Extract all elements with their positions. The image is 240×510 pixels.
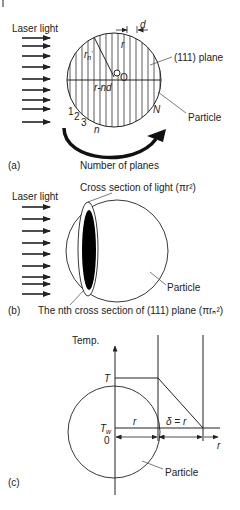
- plane-n-label: n: [94, 124, 100, 135]
- plane-cross-section-ellipse: [82, 210, 96, 290]
- r-axis-label: r: [217, 440, 221, 451]
- temp-axis-label: Temp.: [72, 335, 99, 346]
- plane-leader-line: [150, 57, 172, 65]
- number-of-planes-caption: Number of planes: [80, 160, 159, 171]
- light-cross-section-label: Cross section of light (πr²): [80, 182, 196, 193]
- laser-light-label-a: Laser light: [12, 23, 58, 34]
- plane-number-3: 3: [81, 117, 87, 128]
- zero-label: 0: [104, 435, 110, 446]
- plane-number-2: 2: [74, 111, 80, 122]
- offset-label: r-nd: [94, 82, 112, 93]
- particle-label-a: Particle: [188, 112, 222, 123]
- r-segment-label: r: [133, 416, 137, 427]
- T-label: T: [104, 373, 111, 384]
- panel-a: Laser light: [8, 19, 224, 171]
- particle-circle-c: [68, 386, 160, 478]
- laser-arrows-a: [22, 38, 50, 122]
- laser-light-label-b: Laser light: [12, 191, 58, 202]
- panel-a-label: (a): [8, 160, 20, 171]
- particle-label-c: Particle: [165, 467, 199, 478]
- panel-c: Temp. T Tw 0 r δ = r r Particle (c): [8, 335, 221, 495]
- center-label: O: [120, 72, 128, 83]
- curved-arrow-icon: [64, 128, 156, 158]
- rn-label: rn': [84, 49, 93, 61]
- plane-N-label: N: [153, 104, 161, 115]
- particle-label-b: Particle: [167, 282, 201, 293]
- laser-arrows-b: [22, 207, 50, 294]
- spacing-label: d: [140, 19, 146, 30]
- plane-label: (111) plane: [174, 52, 224, 63]
- panel-b-label: (b): [8, 305, 20, 316]
- Tw-label: Tw: [100, 423, 112, 435]
- panel-b: Cross section of light (πr²) Laser light…: [8, 182, 223, 316]
- diagram: Laser light: [0, 0, 240, 510]
- delta-label: δ = r: [166, 416, 187, 427]
- particle-leader-line-a: [158, 92, 186, 113]
- panel-c-label: (c): [8, 477, 20, 488]
- plane-cross-section-label: The nth cross section of (111) plane (πr…: [38, 305, 223, 316]
